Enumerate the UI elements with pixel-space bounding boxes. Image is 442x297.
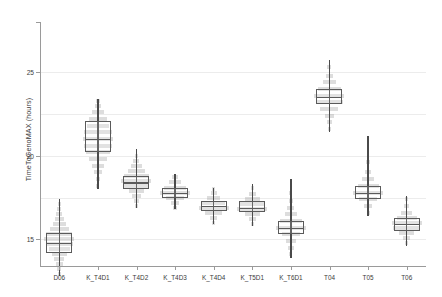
y-tick-label: 20 (20, 152, 34, 159)
median-line (123, 182, 149, 183)
x-tick-label: K_T5D1 (241, 274, 264, 281)
x-tick-label: K_T4D4 (202, 274, 225, 281)
median-line (278, 228, 304, 229)
x-tick (175, 266, 176, 270)
median-line (162, 193, 188, 194)
box-plot-group (156, 22, 195, 266)
box-plot-group (349, 22, 388, 266)
box-plot-group (233, 22, 272, 266)
plot-area: 152025 D06K_T4D1K_T4D2K_T4D3K_T4D4K_T5D1… (40, 22, 426, 266)
median-line (394, 224, 420, 225)
x-tick-label: K_T4D3 (163, 274, 186, 281)
x-tick (368, 266, 369, 270)
x-tick (59, 266, 60, 270)
x-tick (98, 266, 99, 270)
box-plot-group (194, 22, 233, 266)
x-tick-label: K_T6D1 (279, 274, 302, 281)
y-tick-label: 25 (20, 69, 34, 76)
x-tick (214, 266, 215, 270)
chart-figure: TimeToGenoMAX (hours) 152025 D06K_T4D1K_… (0, 0, 442, 297)
box-plot-group (272, 22, 311, 266)
x-tick-label: D06 (53, 274, 65, 281)
whisker-line (367, 136, 368, 216)
whisker-line (290, 179, 291, 258)
median-line (239, 208, 265, 209)
median-line (85, 139, 111, 140)
y-tick-label: 15 (20, 236, 34, 243)
x-tick-label: K_T4D1 (86, 274, 109, 281)
box-plot-group (310, 22, 349, 266)
box-plot-group (387, 22, 426, 266)
median-line (316, 97, 342, 98)
median-line (201, 206, 227, 207)
x-tick (291, 266, 292, 270)
x-tick-label: K_T4D2 (125, 274, 148, 281)
x-tick (330, 266, 331, 270)
y-axis-title: TimeToGenoMAX (hours) (24, 60, 33, 220)
x-tick-label: T05 (363, 274, 374, 281)
x-tick (407, 266, 408, 270)
x-tick (137, 266, 138, 270)
x-tick-label: T04 (324, 274, 335, 281)
x-tick-label: T06 (401, 274, 412, 281)
median-line (355, 193, 381, 194)
median-line (46, 243, 72, 244)
box (85, 121, 111, 153)
box-plot-group (79, 22, 118, 266)
box-plot-group (117, 22, 156, 266)
x-tick (252, 266, 253, 270)
box-plot-group (40, 22, 79, 266)
